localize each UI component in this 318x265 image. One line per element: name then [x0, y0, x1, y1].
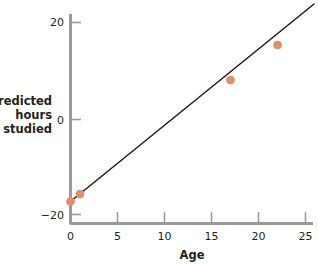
- data-point: [227, 76, 235, 84]
- y-tick-label-20: 20: [50, 16, 64, 29]
- x-tick-label-15: 15: [205, 230, 219, 243]
- chart-figure: 20 0 −20 0 5 10 15 20 25: [0, 0, 318, 265]
- x-tick-label-5: 5: [114, 230, 121, 243]
- y-tick-label-0: 0: [57, 114, 64, 127]
- x-tick-label-0: 0: [67, 230, 74, 243]
- data-point: [76, 190, 84, 198]
- x-axis-title: Age: [180, 248, 205, 262]
- data-point: [67, 198, 75, 206]
- data-point: [274, 41, 282, 49]
- y-axis-title-line-3: studied: [3, 122, 52, 136]
- scatter-plot: 20 0 −20 0 5 10 15 20 25: [0, 0, 318, 265]
- x-tick-label-25: 25: [299, 230, 313, 243]
- y-axis-title-line-1: Predicted: [0, 94, 52, 108]
- y-tick-label-minus20: −20: [41, 209, 64, 222]
- x-tick-label-10: 10: [158, 230, 172, 243]
- x-tick-label-20: 20: [252, 230, 266, 243]
- y-axis-title-line-2: hours: [15, 108, 52, 122]
